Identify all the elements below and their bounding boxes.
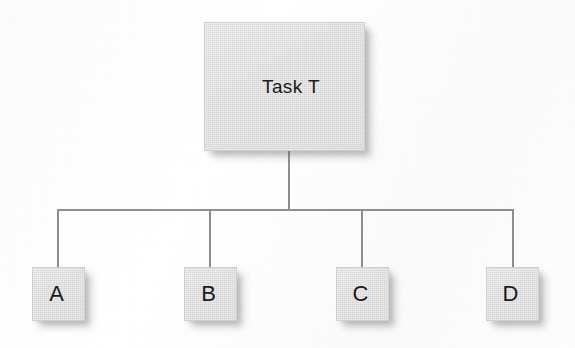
task-decomposition-diagram: Task T A B C D bbox=[0, 0, 575, 348]
node-task-t: Task T bbox=[204, 22, 365, 151]
node-c-label: C bbox=[353, 281, 369, 307]
node-task-t-label: Task T bbox=[262, 76, 320, 98]
connector-root-trunk bbox=[288, 150, 290, 211]
node-b-label: B bbox=[201, 281, 216, 307]
node-d-label: D bbox=[503, 281, 519, 307]
connector-drop-d bbox=[512, 209, 514, 268]
node-d: D bbox=[486, 267, 539, 321]
node-c: C bbox=[336, 267, 389, 321]
connector-drop-b bbox=[209, 209, 211, 268]
node-b: B bbox=[184, 267, 237, 321]
connector-drop-c bbox=[361, 209, 363, 268]
connector-horizontal-bus bbox=[58, 209, 514, 211]
connector-drop-a bbox=[57, 209, 59, 268]
node-a: A bbox=[32, 267, 85, 321]
node-a-label: A bbox=[49, 281, 64, 307]
